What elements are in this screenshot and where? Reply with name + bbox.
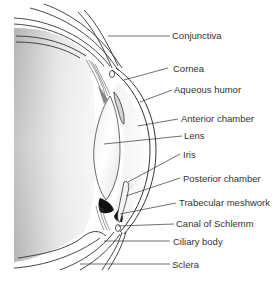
label-lens: Lens bbox=[184, 130, 205, 141]
leader-aqueous-humor bbox=[140, 90, 172, 102]
eye-anatomy-diagram bbox=[0, 0, 275, 281]
label-cornea: Cornea bbox=[173, 63, 204, 74]
label-conjunctiva: Conjunctiva bbox=[172, 30, 222, 41]
label-anterior-chamber: Anterior chamber bbox=[181, 113, 254, 124]
leader-cornea bbox=[124, 68, 168, 80]
lens bbox=[94, 96, 120, 200]
label-trabecular-meshwork: Trabecular meshwork bbox=[179, 197, 270, 208]
leader-anterior-chamber bbox=[138, 119, 178, 126]
canal-of-schlemm-lower bbox=[116, 225, 121, 232]
label-posterior-chamber: Posterior chamber bbox=[183, 173, 261, 184]
label-aqueous-humor: Aqueous humor bbox=[174, 84, 241, 95]
label-sclera: Sclera bbox=[172, 259, 199, 270]
label-iris: Iris bbox=[183, 149, 196, 160]
label-canal-of-schlemm: Canal of Schlemm bbox=[176, 218, 254, 229]
label-ciliary-body: Ciliary body bbox=[173, 236, 223, 247]
vitreous-body bbox=[14, 28, 96, 262]
